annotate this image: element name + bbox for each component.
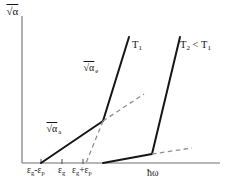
tick-label-eg: εg xyxy=(58,166,65,176)
sqrt-alpha-vs-photon-energy-figure: √α ħω T1 T2 < T1 √αe √αa εg-εp εg εg+εp xyxy=(0,0,226,185)
annotation-sqrt-alpha-emission-subscript: e xyxy=(95,67,98,74)
annotation-sqrt-alpha-absorption-subscript: a xyxy=(58,128,61,135)
annotation-sqrt-alpha-emission-symbol: √α xyxy=(83,62,95,73)
curve-t1-emission-segment xyxy=(103,37,129,121)
x-axis-label-text: ħω xyxy=(147,167,159,178)
tick-label-eg-sub-g: g xyxy=(62,169,65,176)
annotation-temperature-2-ref-subscript: 1 xyxy=(207,44,211,52)
annotation-sqrt-alpha-absorption: √αa xyxy=(46,124,61,136)
annotation-temperature-1: T1 xyxy=(132,40,142,52)
tick-label-eg-plus-ep: εg+εp xyxy=(72,166,92,176)
annotation-temperature-2: T2 < T1 xyxy=(180,40,211,52)
x-axis-label: ħω xyxy=(147,168,159,178)
curve-t2-emission-segment xyxy=(152,37,180,154)
tick-label-eg-minus-ep: εg-εp xyxy=(27,166,45,176)
y-axis-label-text: √α xyxy=(6,5,19,17)
curve-t2-absorption-segment xyxy=(103,154,152,163)
tick-label-eg-minus-ep-sub-p: p xyxy=(41,169,44,176)
tick-label-eg-plus-ep-sub-p: p xyxy=(89,169,92,176)
annotation-sqrt-alpha-emission: √αe xyxy=(83,63,98,75)
annotation-temperature-relation: < xyxy=(190,39,201,50)
plot-canvas xyxy=(0,0,226,185)
y-axis-label: √α xyxy=(6,6,19,17)
annotation-temperature-1-subscript: 1 xyxy=(138,44,142,52)
annotation-sqrt-alpha-absorption-symbol: √α xyxy=(46,123,58,134)
dashed-t2-absorption-extrapolation xyxy=(152,148,192,154)
